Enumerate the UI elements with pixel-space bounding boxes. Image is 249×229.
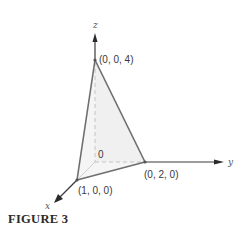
- z-axis-label: z: [92, 20, 98, 30]
- z-axis-arrow-icon: [93, 33, 98, 42]
- tetrahedron-diagram: z y x 0 (0, 0, 4) (0, 2, 0) (1, 0, 0): [0, 0, 249, 229]
- vertex-z-dot: [93, 58, 96, 61]
- origin-label: 0: [98, 149, 104, 160]
- x-axis: [60, 180, 77, 197]
- y-axis-label: y: [227, 157, 234, 167]
- vertex-label-y: (0, 2, 0): [144, 169, 178, 180]
- figure-caption: FIGURE 3: [8, 212, 68, 227]
- vertex-x-dot: [75, 178, 78, 181]
- vertex-label-z: (0, 0, 4): [99, 54, 133, 65]
- vertex-y-dot: [143, 160, 146, 163]
- x-axis-label: x: [45, 201, 50, 211]
- vertex-label-x: (1, 0, 0): [78, 185, 112, 196]
- y-axis-arrow-icon: [214, 160, 224, 165]
